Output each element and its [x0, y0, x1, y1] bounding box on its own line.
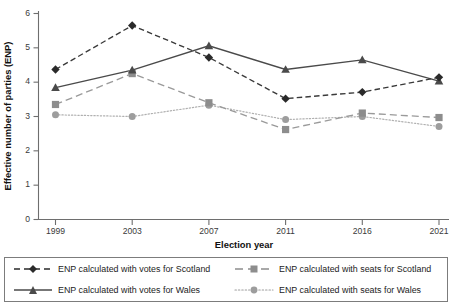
x-tick-label: 2003 [123, 226, 142, 236]
legend-label-seats-wales: ENP calculated with seats for Wales [279, 285, 421, 295]
legend-item-seats-scotland[interactable]: ENP calculated with seats for Scotland [226, 258, 447, 280]
x-tick-label: 2021 [429, 226, 448, 236]
x-tick-label: 2011 [276, 226, 295, 236]
legend-swatch-votes-scotland [13, 262, 53, 276]
y-tick-label: 2 [25, 145, 30, 155]
series-markers-seats-scotland [52, 70, 443, 133]
data-point [52, 101, 59, 108]
data-point [205, 41, 214, 49]
data-point [128, 21, 136, 29]
series-line-seats-wales [56, 105, 440, 126]
legend-swatch-votes-wales [13, 283, 53, 297]
y-tick-label: 5 [25, 42, 30, 52]
legend: ENP calculated with votes for Scotland E… [4, 257, 448, 302]
data-point [436, 123, 443, 130]
y-tick-label: 1 [25, 179, 30, 189]
x-axis-title: Election year [215, 239, 274, 250]
data-point [52, 111, 59, 118]
data-point [359, 109, 366, 116]
data-point [129, 113, 136, 120]
legend-item-votes-scotland[interactable]: ENP calculated with votes for Scotland [5, 258, 226, 280]
data-point [205, 53, 213, 61]
data-point [51, 65, 59, 73]
data-point [358, 88, 366, 96]
y-axis-title: Effective number of parties (ENP) [2, 42, 13, 191]
series-markers-votes-scotland [51, 21, 443, 103]
data-point [435, 114, 442, 121]
y-tick-label: 4 [25, 76, 30, 86]
plot-area: Effective number of parties (ENP) 012345… [0, 0, 454, 255]
legend-item-seats-wales[interactable]: ENP calculated with seats for Wales [226, 280, 447, 302]
legend-label-votes-scotland: ENP calculated with votes for Scotland [58, 264, 210, 274]
legend-swatch-seats-wales [234, 283, 274, 297]
data-point [358, 56, 367, 64]
series-line-seats-scotland [56, 74, 440, 130]
legend-label-seats-scotland: ENP calculated with seats for Scotland [279, 264, 431, 274]
y-tick-label: 3 [25, 111, 30, 121]
x-tick-label: 2007 [199, 226, 218, 236]
data-point [281, 94, 289, 102]
enp-line-chart: Effective number of parties (ENP) 012345… [0, 0, 454, 255]
legend-label-votes-wales: ENP calculated with votes for Wales [58, 285, 200, 295]
y-tick-group: 0123456 [25, 8, 38, 224]
y-tick-label: 6 [25, 8, 30, 18]
data-point [282, 116, 289, 123]
chart-page: Effective number of parties (ENP) 012345… [0, 0, 454, 307]
y-tick-label: 0 [25, 214, 30, 224]
legend-swatch-seats-scotland [234, 262, 274, 276]
series-line-votes-scotland [56, 26, 440, 99]
data-point [282, 126, 289, 133]
data-point [205, 99, 212, 106]
x-tick-label: 1999 [46, 226, 65, 236]
x-tick-label: 2016 [353, 226, 372, 236]
legend-item-votes-wales[interactable]: ENP calculated with votes for Wales [5, 280, 226, 302]
x-tick-group: 199920032007201120162021 [46, 220, 449, 237]
